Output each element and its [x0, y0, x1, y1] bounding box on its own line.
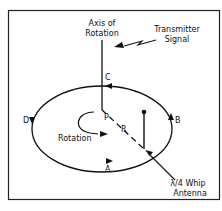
rotation-arrow-icon	[100, 131, 108, 137]
axis-label-line1: Axis of	[89, 19, 116, 28]
arrow-d-icon	[29, 117, 35, 124]
antenna-tip-icon	[142, 110, 147, 115]
transmitter-signal-arrow-icon	[114, 42, 124, 48]
point-d-label: D	[23, 116, 29, 125]
arrow-a-icon	[106, 158, 113, 164]
antenna-label-line1: λ/4 Whip	[170, 179, 205, 188]
rotation-label: Rotation	[58, 134, 91, 143]
antenna-label-line2: Antenna	[173, 189, 207, 198]
axis-label-line2: Rotation	[85, 29, 118, 38]
signal-label-line2: Signal	[165, 35, 190, 44]
radius-r-label: R	[121, 125, 127, 134]
rotation-arc	[78, 112, 98, 134]
point-c-label: C	[105, 73, 111, 82]
center-p-label: P	[104, 113, 109, 122]
arrow-c-icon	[105, 83, 112, 89]
diagram-canvas: Axis of Rotation Transmitter Signal C D …	[0, 0, 222, 211]
antenna-pointer-line	[148, 153, 175, 180]
point-b-label: B	[175, 116, 181, 125]
signal-label-line1: Transmitter	[153, 25, 200, 34]
antenna-pointer-arrow-icon	[145, 150, 153, 156]
transmitter-signal-zigzag	[124, 40, 156, 46]
point-a-label: A	[105, 165, 111, 174]
